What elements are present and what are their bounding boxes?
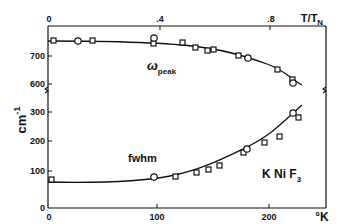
- y-tick-200: 200: [30, 136, 45, 146]
- axis-break-icon: [45, 87, 326, 93]
- y-axis-labels: 700 600 300 200 100 0: [30, 51, 45, 213]
- y-tick-300: 300: [30, 107, 45, 117]
- x-top-tick-0.8: .8: [267, 14, 275, 24]
- series-omega-peak: ωpeak: [48, 35, 302, 86]
- x-axis-labels: 0 100 200 °K: [46, 210, 329, 224]
- y-tick-100: 100: [30, 166, 45, 176]
- x-top-tick-0.4: .4: [156, 14, 164, 24]
- y-axis-label: cm-1: [12, 107, 29, 134]
- x-tick-100: 100: [149, 212, 164, 222]
- x-top-axis-label: T/TN: [301, 12, 324, 27]
- svg-text:cm-1: cm-1: [12, 107, 29, 134]
- fwhm-label: fwhm: [128, 152, 157, 164]
- material-label: K Ni F3: [262, 167, 302, 184]
- x-tick-200: 200: [261, 212, 276, 222]
- y-tick-600: 600: [30, 79, 45, 89]
- x-axis-label: °K: [315, 210, 329, 224]
- x-top-axis-labels: 0 .4 .8 T/TN: [46, 12, 323, 27]
- x-top-tick-0: 0: [46, 14, 51, 24]
- omega-peak-label: ωpeak: [147, 58, 177, 76]
- y-tick-700: 700: [30, 51, 45, 61]
- x-tick-0: 0: [46, 212, 51, 222]
- y-tick-0: 0: [40, 203, 45, 213]
- chart: 700 600 300 200 100 0 cm-1 0 100 200 °K …: [0, 0, 340, 224]
- omega-peak-fit-curve: [48, 41, 302, 85]
